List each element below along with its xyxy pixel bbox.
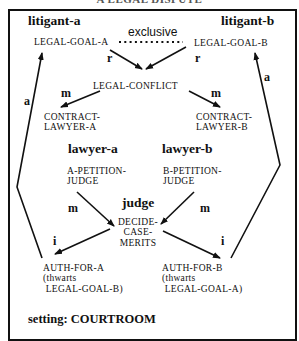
m-arrow-petition-a bbox=[77, 192, 114, 226]
node-legal-conflict: LEGAL-CONFLICT bbox=[93, 81, 178, 91]
role-lawyer-b: lawyer-b bbox=[162, 142, 213, 157]
i-arrow-auth-a bbox=[55, 229, 110, 254]
label-m-judge-right: m bbox=[200, 202, 210, 215]
role-litigant-a: litigant-a bbox=[28, 14, 81, 29]
label-i-left: i bbox=[53, 235, 56, 248]
a-path-left bbox=[17, 53, 42, 258]
role-lawyer-a: lawyer-a bbox=[68, 142, 118, 157]
r-arrow-right bbox=[146, 47, 186, 69]
label-a-left: a bbox=[24, 95, 30, 108]
label-a-right: a bbox=[264, 71, 270, 84]
role-judge: judge bbox=[122, 196, 154, 211]
label-r-left: r bbox=[107, 52, 112, 65]
label-m-conflict-right: m bbox=[211, 87, 221, 100]
label-m-conflict-left: m bbox=[61, 87, 71, 100]
node-b-petition-judge: B-PETITION- JUDGE bbox=[163, 166, 222, 187]
node-contract-lawyer-a: CONTRACT- LAWYER-A bbox=[44, 112, 100, 133]
a-path-right bbox=[231, 53, 280, 258]
node-auth-for-a: AUTH-FOR-A (thwarts LEGAL-GOAL-B) bbox=[43, 263, 123, 294]
i-arrow-auth-b bbox=[163, 231, 220, 258]
node-legal-goal-a: LEGAL-GOAL-A bbox=[34, 37, 108, 47]
node-auth-for-b: AUTH-FOR-B (thwarts LEGAL-GOAL-A) bbox=[162, 263, 242, 294]
node-a-petition-judge: A-PETITION- JUDGE bbox=[67, 166, 126, 187]
label-m-judge-left: m bbox=[68, 202, 78, 215]
label-i-right: i bbox=[221, 235, 224, 248]
role-litigant-b: litigant-b bbox=[221, 14, 274, 29]
label-r-right: r bbox=[195, 52, 200, 65]
r-arrow-left bbox=[110, 50, 142, 69]
node-contract-lawyer-b: CONTRACT- LAWYER-B bbox=[196, 112, 252, 133]
node-decide-case-merits: DECIDE- CASE- MERITS bbox=[113, 217, 163, 248]
setting-label: setting: COURTROOM bbox=[28, 313, 156, 327]
node-legal-goal-b: LEGAL-GOAL-B bbox=[194, 38, 268, 48]
relation-exclusive: exclusive bbox=[128, 26, 177, 39]
m-arrow-petition-b bbox=[161, 192, 194, 224]
